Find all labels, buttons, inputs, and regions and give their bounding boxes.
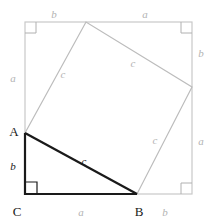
right-angle-mark-bottom-right xyxy=(181,183,192,194)
right-angle-mark-top-left xyxy=(25,22,36,33)
label-left-a: a xyxy=(10,73,16,84)
right-angle-mark-vertex-c xyxy=(25,182,37,194)
label-left-b: b xyxy=(10,161,16,172)
label-bottom-a: a xyxy=(78,207,84,218)
label-c-upper-right: c xyxy=(131,58,136,69)
outer-square xyxy=(25,22,192,194)
label-bottom-b: b xyxy=(162,207,168,218)
label-top-b: b xyxy=(51,9,57,20)
right-angle-mark-top-right xyxy=(181,22,192,33)
pythagorean-proof-figure: b a b a a b a b c c c c A B C xyxy=(0,0,213,222)
inner-tilted-square xyxy=(25,22,192,194)
label-c-upper-left: c xyxy=(61,69,66,80)
vertex-label-a: A xyxy=(9,125,18,138)
vertex-label-c: C xyxy=(13,205,22,218)
geometry-canvas xyxy=(0,0,213,222)
label-c-hypotenuse: c xyxy=(82,156,87,167)
label-right-a: a xyxy=(198,136,204,147)
vertex-label-b: B xyxy=(135,205,144,218)
label-top-a: a xyxy=(142,9,148,20)
label-right-b: b xyxy=(198,48,204,59)
label-c-lower-right: c xyxy=(153,135,158,146)
